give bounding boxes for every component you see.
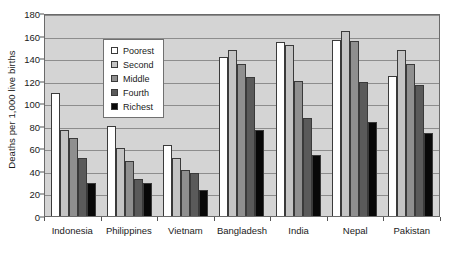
bar [285,45,294,216]
bar [87,183,96,216]
y-axis-tick-label: 180 [24,9,40,20]
bar [190,173,199,216]
bar [368,122,377,216]
x-axis-tick-mark [157,217,158,221]
legend-swatch-icon [111,103,118,110]
bar [246,77,255,216]
bar-group [214,15,270,216]
y-axis-tick-label: 100 [24,99,40,110]
legend-item: Poorest [111,45,154,56]
x-axis-tick-mark [101,217,102,221]
x-axis-tick-label: Pakistan [383,225,440,236]
bar [181,170,190,216]
x-axis-tick-label: Philippines [101,225,158,236]
bar [125,161,134,216]
x-axis-tick-mark [270,217,271,221]
legend-label: Poorest [123,46,154,56]
legend-label: Fourth [123,88,149,98]
bar [172,158,181,216]
y-axis-tick-label: 160 [24,31,40,42]
legend-label: Second [123,60,154,70]
y-axis-tick-label: 40 [29,166,40,177]
y-axis-tick-labels: 020406080100120140160180 [18,14,44,217]
legend-label: Richest [123,102,153,112]
bar [388,76,397,216]
x-axis: IndonesiaPhilippinesVietnamBangladeshInd… [44,217,440,255]
bar-group [326,15,382,216]
x-axis-tick-labels: IndonesiaPhilippinesVietnamBangladeshInd… [44,225,440,236]
x-axis-tick-label: Bangladesh [214,225,271,236]
x-axis-tick-label: Nepal [327,225,384,236]
bar [397,50,406,216]
under-five-mortality-bar-chart: Deaths per 1,000 live births 02040608010… [0,0,449,255]
legend-swatch-icon [111,89,118,96]
x-axis-tick-mark [214,217,215,221]
legend-item: Middle [111,73,154,84]
bar-group [45,15,101,216]
bar [294,81,303,216]
y-axis-tick-label: 120 [24,76,40,87]
bar [350,41,359,216]
y-axis-tick-label: 20 [29,189,40,200]
x-axis-tick-mark [440,217,441,221]
legend-swatch-icon [111,61,118,68]
bar [143,183,152,216]
bar [60,130,69,216]
legend-swatch-icon [111,75,118,82]
bar [424,133,433,216]
bar [312,155,321,216]
legend-swatch-icon [111,47,118,54]
legend-label: Middle [123,74,150,84]
bar [78,158,87,216]
legend-item: Richest [111,101,154,112]
bar [332,40,341,216]
x-axis-tick-mark [383,217,384,221]
bar [237,64,246,216]
legend: PoorestSecondMiddleFourthRichest [103,39,164,118]
legend-item: Fourth [111,87,154,98]
x-axis-tick-label: Indonesia [44,225,101,236]
bar [303,118,312,216]
x-axis-tick-mark [44,217,45,221]
x-axis-tick-label: India [270,225,327,236]
bar-group [158,15,214,216]
bar [163,145,172,216]
bar [415,85,424,216]
bar [116,148,125,216]
bar [107,126,116,216]
x-axis-tick-mark [327,217,328,221]
bar [276,42,285,216]
bar-group [383,15,439,216]
bar [134,179,143,216]
legend-item: Second [111,59,154,70]
y-axis-tick-label: 60 [29,144,40,155]
y-axis-tick-label: 80 [29,121,40,132]
bar [69,138,78,216]
bar [228,50,237,216]
bar [359,82,368,216]
y-axis-title-text: Deaths per 1,000 live births [6,50,17,168]
y-axis-tick-label: 140 [24,54,40,65]
bar-group [270,15,326,216]
bar [199,190,208,216]
bar [219,57,228,216]
bar [341,31,350,216]
x-axis-tick-label: Vietnam [157,225,214,236]
bar [51,93,60,216]
bar [406,64,415,216]
bar [255,130,264,216]
